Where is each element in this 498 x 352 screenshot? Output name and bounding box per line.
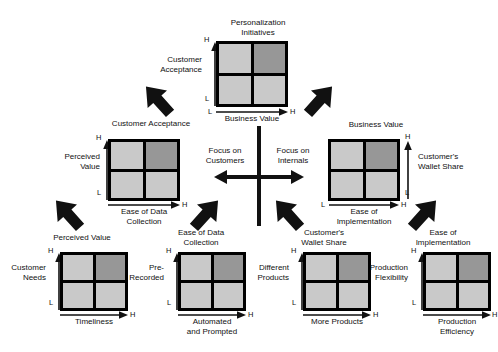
cell-bottom-left xyxy=(63,283,93,308)
y-axis-low-tick: L xyxy=(205,95,209,103)
matrix-x-label: Business Value xyxy=(208,114,296,124)
flow-arrow-up-left-1 xyxy=(300,82,340,118)
y-axis-high-tick: H xyxy=(48,247,53,255)
y-axis-high-tick: H xyxy=(411,247,416,255)
cell-bottom-left xyxy=(181,283,211,308)
matrix-y-label: Production Flexibility xyxy=(360,263,408,282)
cell-top-right xyxy=(366,142,398,169)
focus-on-internals-label: Focus on Internals xyxy=(264,146,322,165)
cell-bottom-right xyxy=(339,283,369,308)
y-axis-high-tick: H xyxy=(166,247,171,255)
flow-arrow-up-left-2 xyxy=(186,196,226,232)
matrix-y-label: Pre- Recorded xyxy=(118,263,164,282)
cell-bottom-right xyxy=(459,283,489,308)
cell-top-left xyxy=(219,44,251,73)
cell-top-left xyxy=(111,142,143,169)
matrix-y-label: Perceived Value xyxy=(58,152,100,171)
flow-arrow-up-right-1 xyxy=(138,82,178,118)
cell-bottom-right xyxy=(366,172,398,199)
matrix-title: Perceived Value xyxy=(36,233,128,243)
matrix-y-label: Customer Needs xyxy=(0,263,46,282)
matrix-grid xyxy=(178,252,246,311)
y-axis-low-tick: L xyxy=(97,189,101,197)
cell-bottom-left xyxy=(426,283,456,308)
matrix-x-label: Production Efficiency xyxy=(414,317,498,336)
cell-top-left xyxy=(331,142,363,169)
flow-arrow-up-left-3 xyxy=(404,196,444,232)
diagram-canvas: Personalization Initiatives Customer Acc… xyxy=(0,0,498,352)
cell-bottom-right xyxy=(214,283,244,308)
cell-top-right xyxy=(459,255,489,280)
cell-bottom-left xyxy=(219,76,251,105)
matrix-title: Business Value xyxy=(330,120,422,130)
matrix-y-label: Different Products xyxy=(243,263,289,282)
focus-on-customers-label: Focus on Customers xyxy=(196,146,254,165)
matrix-x-label: Automated and Prompted xyxy=(168,317,256,336)
cell-bottom-right xyxy=(96,283,126,308)
cell-top-left xyxy=(426,255,456,280)
cell-bottom-right xyxy=(254,76,286,105)
cell-top-right xyxy=(214,255,244,280)
y-axis-low-tick: L xyxy=(292,299,296,307)
y-axis-high-tick: H xyxy=(405,133,410,141)
y-axis-low-tick: L xyxy=(167,299,171,307)
matrix-x-label: More Products xyxy=(295,317,379,327)
matrix-y-label: Customer Acceptance xyxy=(150,55,202,74)
matrix-x-label: Ease of Implementation xyxy=(320,207,408,226)
matrix-grid xyxy=(328,139,400,201)
y-axis-high-tick: H xyxy=(96,134,101,142)
y-axis-arrow xyxy=(403,141,413,201)
cell-top-left xyxy=(306,255,336,280)
y-axis-high-tick: H xyxy=(291,247,296,255)
flow-arrow-up-right-3 xyxy=(268,196,308,232)
cell-top-right xyxy=(146,142,178,169)
y-axis-low-tick: L xyxy=(412,299,416,307)
matrix-x-label: Ease of Data Collection xyxy=(100,207,188,226)
matrix-y-label: Customer's Wallet Share xyxy=(418,152,484,171)
cell-bottom-left xyxy=(331,172,363,199)
cell-bottom-left xyxy=(306,283,336,308)
matrix-grid xyxy=(423,252,491,311)
matrix-title: Customer Acceptance xyxy=(95,119,207,129)
matrix-x-label: Timeliness xyxy=(52,317,136,327)
flow-arrow-up-right-2 xyxy=(48,196,88,232)
cell-bottom-left xyxy=(111,172,143,199)
cell-bottom-right xyxy=(146,172,178,199)
cell-top-left xyxy=(63,255,93,280)
y-axis-high-tick: H xyxy=(204,36,209,44)
matrix-grid xyxy=(108,139,180,201)
cell-top-left xyxy=(181,255,211,280)
matrix-grid xyxy=(216,41,288,107)
matrix-title: Personalization Initiatives xyxy=(203,18,313,37)
y-axis-low-tick: L xyxy=(49,299,53,307)
cell-top-right xyxy=(254,44,286,73)
